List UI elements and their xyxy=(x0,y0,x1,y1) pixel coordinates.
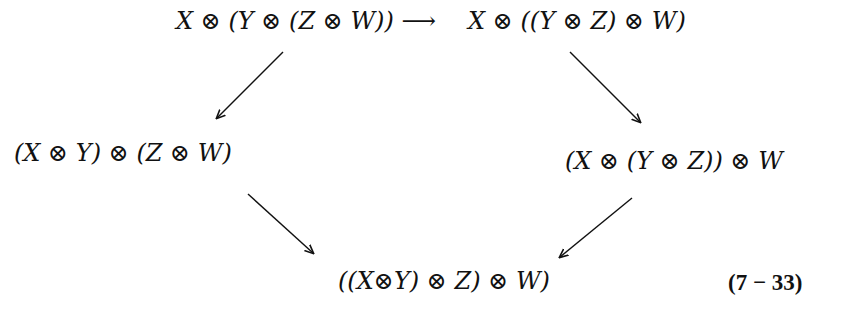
arrow-mid-left-to-bottom xyxy=(248,194,313,253)
arrow-top-right-to-mid-right xyxy=(570,52,640,122)
pentagon-diagram: X ⊗ (Y ⊗ (Z ⊗ W)) ⟶ X ⊗ ((Y ⊗ Z) ⊗ W) (X… xyxy=(0,0,865,315)
arrows-layer xyxy=(0,0,865,315)
arrow-mid-right-to-bottom xyxy=(560,198,632,257)
arrow-top-left-to-mid-left xyxy=(217,52,283,118)
